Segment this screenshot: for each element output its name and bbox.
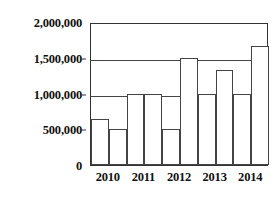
y-axis-labels: 0500,0001,000,0001,500,0002,000,000 (0, 0, 82, 202)
y-axis-tickmark (80, 130, 86, 131)
bar (180, 58, 198, 165)
y-axis-tick-label: 1,500,000 (34, 51, 82, 66)
y-axis-tickmark (80, 94, 86, 95)
bar (162, 129, 180, 165)
bar (233, 94, 251, 166)
bar (251, 46, 269, 165)
bar (91, 119, 109, 165)
bar (127, 94, 145, 166)
x-axis-tick-label: 2011 (132, 170, 156, 185)
bar (198, 94, 216, 166)
y-axis-tick-label: 1,000,000 (34, 87, 82, 102)
x-axis-tick-label: 2013 (202, 170, 226, 185)
bar (109, 129, 127, 165)
y-axis-tick-label: 0 (76, 159, 82, 174)
x-axis-labels: 20102011201220132014 (90, 170, 268, 192)
y-axis-tick-label: 500,000 (43, 123, 82, 138)
gridline (91, 60, 267, 61)
x-axis-tick-label: 2014 (238, 170, 262, 185)
y-axis-tickmark (80, 58, 86, 59)
plot-area (90, 23, 268, 166)
bar-chart: 0500,0001,000,0001,500,0002,000,000 2010… (0, 0, 277, 202)
x-axis-tick-label: 2010 (96, 170, 120, 185)
x-axis-tick-label: 2012 (167, 170, 191, 185)
y-axis-tick-label: 2,000,000 (34, 16, 82, 31)
bar (144, 94, 162, 166)
bar (216, 70, 234, 165)
